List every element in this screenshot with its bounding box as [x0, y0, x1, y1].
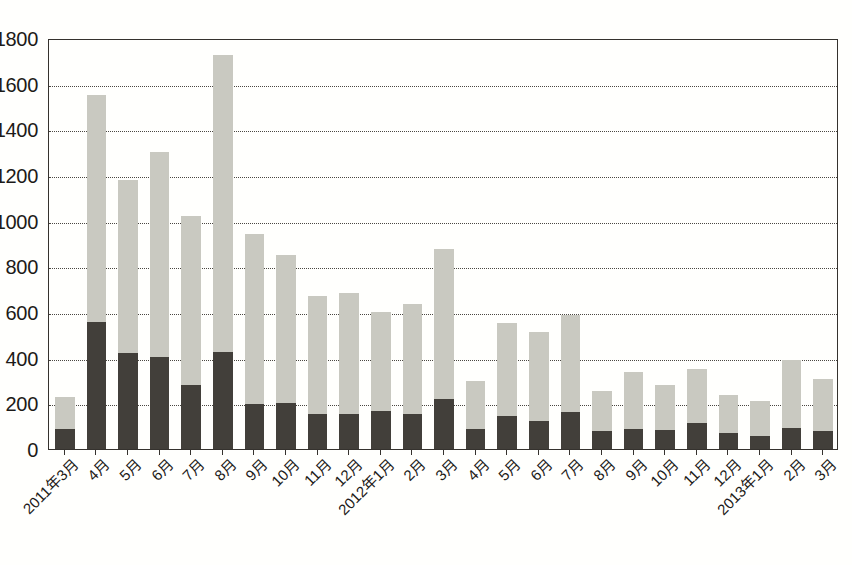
- bar-segment-lower: [434, 399, 454, 449]
- bar-group: [371, 312, 391, 449]
- bar-segment-lower: [813, 431, 833, 449]
- bar-segment-lower: [497, 416, 517, 449]
- bar-segment-upper: [181, 216, 201, 384]
- bar-group: [87, 95, 107, 449]
- bar-group: [181, 216, 201, 449]
- bar-segment-upper: [371, 312, 391, 411]
- y-tick-label: 1400: [0, 120, 38, 140]
- x-tick-label: 11月: [301, 456, 334, 489]
- bar-segment-lower: [308, 414, 328, 449]
- bar-group: [782, 360, 802, 449]
- bar-segment-upper: [529, 332, 549, 422]
- bar-segment-upper: [624, 372, 644, 429]
- x-tick-label: 10月: [648, 456, 682, 490]
- bar-group: [687, 369, 707, 449]
- bar-segment-lower: [181, 385, 201, 449]
- x-tick-label: 4月: [464, 456, 492, 484]
- x-tick-label: 3月: [812, 456, 840, 484]
- bar-segment-lower: [624, 429, 644, 449]
- bar-segment-lower: [55, 429, 75, 449]
- bar-segment-lower: [655, 430, 675, 449]
- y-tick-label: 1200: [0, 166, 38, 186]
- bar-segment-upper: [466, 381, 486, 428]
- bar-segment-upper: [308, 296, 328, 414]
- bar-segment-upper: [87, 95, 107, 322]
- bar-group: [434, 249, 454, 449]
- bar-group: [55, 397, 75, 449]
- bar-group: [750, 401, 770, 449]
- bar-group: [150, 151, 170, 449]
- bar-group: [561, 315, 581, 449]
- bar-segment-upper: [687, 369, 707, 423]
- bar-segment-upper: [750, 401, 770, 436]
- bar-segment-lower: [592, 431, 612, 449]
- x-tick-label: 6月: [148, 456, 176, 484]
- bar-segment-lower: [750, 436, 770, 449]
- y-axis: 020040060080010001200140016001800: [0, 39, 44, 450]
- y-tick-label: 1000: [0, 212, 38, 232]
- x-tick-label: 2月: [780, 456, 808, 484]
- bar-segment-lower: [245, 404, 265, 449]
- x-tick-label: 2011年3月: [20, 456, 81, 517]
- bar-group: [245, 234, 265, 449]
- x-tick-label: 8月: [211, 456, 239, 484]
- bar-group: [655, 385, 675, 449]
- x-tick-label: 10月: [269, 456, 303, 490]
- bar-segment-lower: [339, 414, 359, 449]
- bar-group: [624, 372, 644, 449]
- plot-area: [48, 39, 838, 450]
- bar-segment-upper: [213, 55, 233, 352]
- bar-segment-upper: [245, 234, 265, 404]
- x-tick-label: 7月: [559, 456, 587, 484]
- bar-group: [813, 379, 833, 449]
- bar-group: [339, 293, 359, 449]
- bar-segment-lower: [466, 429, 486, 449]
- bar-segment-lower: [150, 357, 170, 449]
- x-tick-label: 3月: [432, 456, 460, 484]
- bar-segment-lower: [403, 414, 423, 449]
- bar-series-container: [49, 40, 837, 449]
- bar-group: [497, 323, 517, 449]
- bar-segment-lower: [719, 433, 739, 449]
- bar-segment-upper: [719, 395, 739, 433]
- bar-segment-upper: [276, 255, 296, 403]
- bar-segment-upper: [497, 323, 517, 415]
- bar-segment-lower: [213, 352, 233, 449]
- bar-segment-lower: [561, 412, 581, 449]
- bar-segment-upper: [339, 293, 359, 414]
- bar-group: [719, 395, 739, 449]
- x-tick-label: 6月: [527, 456, 555, 484]
- bar-segment-upper: [118, 180, 138, 353]
- bar-group: [403, 304, 423, 449]
- x-tick-label: 5月: [496, 456, 524, 484]
- x-tick-label: 5月: [116, 456, 144, 484]
- bar-segment-lower: [87, 322, 107, 449]
- bar-group: [118, 180, 138, 449]
- bar-group: [276, 255, 296, 449]
- bar-segment-upper: [150, 152, 170, 357]
- bar-segment-lower: [118, 353, 138, 449]
- bar-group: [308, 296, 328, 449]
- bar-group: [529, 332, 549, 449]
- y-tick-label: 1600: [0, 75, 38, 95]
- bar-segment-upper: [434, 249, 454, 399]
- bar-segment-lower: [371, 411, 391, 449]
- y-tick-label: 200: [6, 394, 38, 414]
- bar-segment-upper: [655, 385, 675, 430]
- y-tick-label: 1800: [0, 29, 38, 49]
- x-tick-label: 11月: [680, 456, 713, 489]
- x-tick-label: 7月: [180, 456, 208, 484]
- chart-figure: 020040060080010001200140016001800 2011年3…: [0, 0, 852, 565]
- bar-segment-lower: [276, 403, 296, 449]
- bar-segment-upper: [403, 304, 423, 415]
- bar-segment-upper: [55, 397, 75, 429]
- bar-segment-upper: [561, 315, 581, 412]
- bar-group: [213, 55, 233, 449]
- y-tick-label: 400: [6, 349, 38, 369]
- x-tick-label: 9月: [622, 456, 650, 484]
- x-tick-label: 9月: [243, 456, 271, 484]
- x-tick-label: 4月: [85, 456, 113, 484]
- x-tick-label: 8月: [590, 456, 618, 484]
- y-tick-label: 800: [6, 257, 38, 277]
- bar-group: [466, 381, 486, 449]
